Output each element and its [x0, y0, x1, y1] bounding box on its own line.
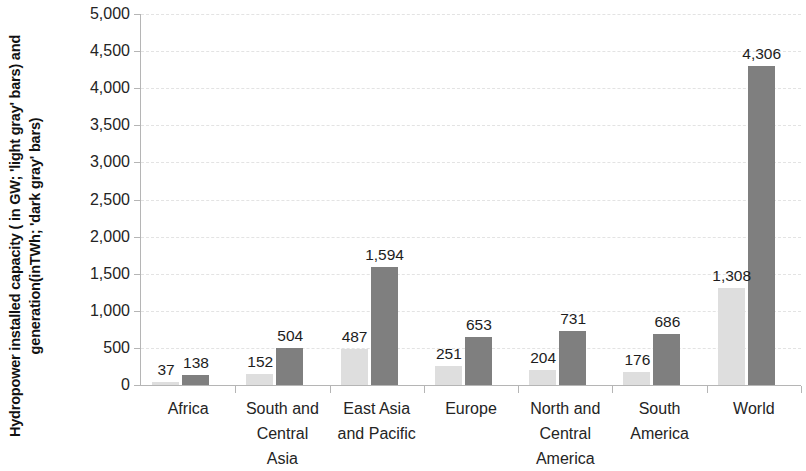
y-axis-tick-labels: 05001,0001,5002,0002,5003,0003,5004,0004… — [52, 0, 140, 400]
bar-group: 176686 — [612, 14, 706, 385]
y-axis-tick-label: 3,500 — [52, 116, 130, 134]
bar-value-label-capacity: 204 — [515, 349, 571, 367]
y-axis-tick-label: 0 — [52, 376, 130, 394]
y-axis-tickmark — [134, 348, 141, 349]
x-axis-category-label: Europe — [424, 396, 518, 421]
bar-capacity — [623, 372, 650, 385]
bar-capacity — [246, 374, 273, 385]
x-axis-category-label: South andCentralAsia — [235, 396, 329, 471]
x-axis-tickmark — [424, 386, 425, 393]
bar-value-label-generation: 653 — [451, 316, 507, 334]
bar-capacity — [435, 366, 462, 385]
bar-value-label-capacity: 176 — [609, 351, 665, 369]
bar-group: 152504 — [235, 14, 329, 385]
y-axis-tick-label: 2,500 — [52, 191, 130, 209]
y-axis-tickmark — [134, 274, 141, 275]
y-axis-tick-label: 4,000 — [52, 79, 130, 97]
x-axis-tickmark — [330, 386, 331, 393]
x-axis-category-line: South and — [235, 396, 329, 421]
x-axis-category-line: East Asia — [330, 396, 424, 421]
y-axis-tickmark — [134, 88, 141, 89]
bar-groups: 371381525044871,5942516532047311766861,3… — [141, 14, 801, 385]
bar-generation — [748, 66, 775, 386]
y-axis-tickmark — [134, 125, 141, 126]
y-axis-tickmark — [134, 51, 141, 52]
y-axis-tickmark — [134, 237, 141, 238]
bar-group: 1,3084,306 — [707, 14, 801, 385]
x-axis-category-label: World — [707, 396, 801, 421]
x-axis-tickmark — [707, 386, 708, 393]
bar-generation — [371, 267, 398, 385]
y-axis-tickmark — [134, 200, 141, 201]
bar-value-label-generation: 138 — [168, 354, 224, 372]
bar-value-label-generation: 686 — [639, 313, 695, 331]
bar-capacity — [718, 288, 745, 385]
x-axis-tickmark — [235, 386, 236, 393]
x-axis-tickmark — [518, 386, 519, 393]
x-axis-category-line: World — [707, 396, 801, 421]
x-axis-category-line: Europe — [424, 396, 518, 421]
x-axis-category-line: America — [518, 446, 612, 471]
x-axis-category-line: Central — [518, 421, 612, 446]
bar-value-label-generation: 4,306 — [734, 45, 790, 63]
hydropower-bar-chart: Hydropower installed capacity ( in GW; '… — [0, 0, 806, 471]
y-axis-tick-label: 500 — [52, 339, 130, 357]
x-axis-category-label: East Asiaand Pacific — [330, 396, 424, 446]
bar-group: 4871,594 — [330, 14, 424, 385]
y-axis-title-text: Hydropower installed capacity ( in GW; '… — [6, 21, 45, 451]
bar-group: 204731 — [518, 14, 612, 385]
y-axis-tickmark — [134, 385, 141, 386]
bar-value-label-generation: 504 — [262, 327, 318, 345]
y-axis-tick-label: 5,000 — [52, 5, 130, 23]
x-axis-tick-labels: AfricaSouth andCentralAsiaEast Asiaand P… — [141, 396, 801, 471]
x-axis-category-line: Africa — [141, 396, 235, 421]
y-axis-tick-label: 1,500 — [52, 265, 130, 283]
bar-capacity — [529, 370, 556, 385]
x-axis-line — [140, 385, 801, 386]
bar-value-label-capacity: 152 — [232, 353, 288, 371]
bar-value-label-generation: 731 — [545, 310, 601, 328]
x-axis-category-line: Central — [235, 421, 329, 446]
x-axis-tickmark — [612, 386, 613, 393]
bar-value-label-capacity: 487 — [327, 328, 383, 346]
plot-area: 371381525044871,5942516532047311766861,3… — [141, 14, 801, 385]
x-axis-category-line: and Pacific — [330, 421, 424, 446]
x-axis-category-line: North and — [518, 396, 612, 421]
y-axis-tick-label: 4,500 — [52, 42, 130, 60]
x-axis-category-line: America — [612, 421, 706, 446]
y-axis-tick-label: 1,000 — [52, 302, 130, 320]
x-axis-category-label: Africa — [141, 396, 235, 421]
y-axis-tick-label: 2,000 — [52, 228, 130, 246]
bar-value-label-generation: 1,594 — [357, 246, 413, 264]
bar-value-label-capacity: 1,308 — [704, 267, 760, 285]
bar-group: 37138 — [141, 14, 235, 385]
y-axis-title: Hydropower installed capacity ( in GW; '… — [0, 0, 52, 471]
x-axis-category-line: South — [612, 396, 706, 421]
bar-value-label-capacity: 251 — [421, 345, 477, 363]
y-axis-tickmark — [134, 311, 141, 312]
bar-capacity — [341, 349, 368, 385]
x-axis-tickmark — [801, 386, 802, 393]
x-axis-category-label: SouthAmerica — [612, 396, 706, 446]
y-axis-tick-label: 3,000 — [52, 153, 130, 171]
x-axis-category-label: North andCentralAmerica — [518, 396, 612, 471]
y-axis-tickmark — [134, 162, 141, 163]
y-axis-tickmark — [134, 14, 141, 15]
bar-group: 251653 — [424, 14, 518, 385]
x-axis-category-line: Asia — [235, 446, 329, 471]
